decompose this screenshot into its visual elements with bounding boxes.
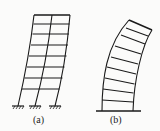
frame-a	[12, 15, 70, 109]
frame-b	[96, 20, 152, 111]
figure-label-a: (a)	[33, 114, 44, 125]
figure-label-b: (b)	[110, 114, 122, 125]
deformation-diagrams	[0, 0, 160, 131]
diagram-root: (a) (b)	[0, 0, 160, 131]
